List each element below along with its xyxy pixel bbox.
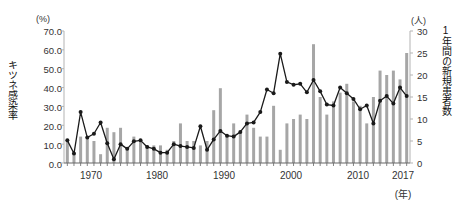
bar bbox=[405, 53, 408, 163]
data-point bbox=[318, 89, 322, 93]
data-point bbox=[252, 120, 256, 124]
data-point bbox=[172, 142, 176, 146]
data-point bbox=[198, 124, 202, 128]
bar bbox=[239, 132, 242, 163]
data-point bbox=[398, 86, 402, 90]
data-point bbox=[245, 121, 249, 125]
data-point bbox=[312, 78, 316, 82]
bar bbox=[305, 119, 308, 163]
data-point bbox=[365, 103, 369, 107]
data-point bbox=[405, 94, 409, 98]
data-point bbox=[139, 138, 143, 142]
bar bbox=[352, 101, 355, 163]
bar bbox=[285, 123, 288, 163]
plot-area bbox=[0, 0, 463, 208]
data-point bbox=[331, 103, 335, 107]
bar bbox=[359, 106, 362, 163]
bar bbox=[66, 141, 69, 163]
data-point bbox=[358, 107, 362, 111]
bar bbox=[252, 128, 255, 163]
bar bbox=[232, 123, 235, 163]
data-point bbox=[85, 136, 89, 140]
bar bbox=[272, 106, 275, 163]
data-point bbox=[391, 102, 395, 106]
bar bbox=[365, 123, 368, 163]
bar bbox=[299, 115, 302, 163]
data-point bbox=[272, 91, 276, 95]
bar bbox=[199, 145, 202, 163]
data-point bbox=[258, 110, 262, 114]
data-point bbox=[298, 82, 302, 86]
data-point bbox=[105, 141, 109, 145]
bar bbox=[372, 97, 375, 163]
bar bbox=[312, 44, 315, 163]
data-point bbox=[232, 135, 236, 139]
bar bbox=[259, 137, 262, 163]
chart-figure: (%) (人) キツネ感染率 1年間の新規患者数 70.0 60.0 50.0 … bbox=[0, 0, 463, 208]
data-point bbox=[72, 152, 76, 156]
data-point bbox=[145, 145, 149, 149]
data-point bbox=[371, 121, 375, 125]
bar bbox=[219, 88, 222, 163]
bar bbox=[385, 75, 388, 163]
bar bbox=[92, 141, 95, 163]
data-point bbox=[119, 142, 123, 146]
data-point bbox=[351, 97, 355, 101]
data-point bbox=[338, 86, 342, 90]
data-point bbox=[205, 148, 209, 152]
bar bbox=[139, 141, 142, 163]
data-point bbox=[292, 83, 296, 87]
data-point bbox=[218, 129, 222, 133]
bar bbox=[186, 141, 189, 163]
bar bbox=[265, 137, 268, 163]
data-point bbox=[238, 130, 242, 134]
data-point bbox=[152, 147, 156, 151]
data-point bbox=[345, 91, 349, 95]
bar bbox=[126, 150, 129, 163]
bar bbox=[379, 71, 382, 163]
bar bbox=[292, 119, 295, 163]
data-point bbox=[212, 137, 216, 141]
data-point bbox=[79, 110, 83, 114]
data-point bbox=[112, 157, 116, 161]
bar bbox=[399, 79, 402, 163]
data-point bbox=[92, 132, 96, 136]
data-point bbox=[265, 87, 269, 91]
data-point bbox=[225, 134, 229, 138]
data-point bbox=[185, 145, 189, 149]
data-point bbox=[325, 103, 329, 107]
bar bbox=[345, 84, 348, 163]
bar bbox=[86, 137, 89, 163]
bar bbox=[339, 93, 342, 163]
data-point bbox=[385, 94, 389, 98]
bar bbox=[325, 115, 328, 163]
data-point bbox=[192, 146, 196, 150]
bar bbox=[99, 154, 102, 163]
bar bbox=[392, 71, 395, 163]
bar bbox=[319, 97, 322, 163]
data-point bbox=[305, 90, 309, 94]
data-point bbox=[165, 151, 169, 155]
data-point bbox=[158, 151, 162, 155]
data-point bbox=[285, 80, 289, 84]
data-point bbox=[278, 52, 282, 56]
bar bbox=[226, 137, 229, 163]
data-point bbox=[99, 120, 103, 124]
bar bbox=[79, 137, 82, 163]
data-point bbox=[178, 144, 182, 148]
bar bbox=[179, 123, 182, 163]
line-markers bbox=[65, 52, 408, 162]
line-series bbox=[67, 54, 406, 160]
bar bbox=[279, 150, 282, 163]
bar bbox=[212, 110, 215, 163]
data-point bbox=[378, 99, 382, 103]
data-point bbox=[125, 147, 129, 151]
bar bbox=[332, 101, 335, 163]
data-point bbox=[132, 139, 136, 143]
data-point bbox=[65, 138, 69, 142]
